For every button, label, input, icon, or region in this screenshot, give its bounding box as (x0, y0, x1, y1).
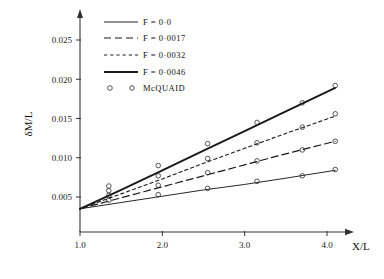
scatter-marker[interactable] (107, 188, 112, 193)
y-tick-label[interactable]: 0.010 (52, 153, 73, 163)
chart-plot-area: 0.0050.0100.0150.0200.0251.02.03.04.0F =… (0, 0, 384, 279)
y-tick-label[interactable]: 0.020 (52, 75, 73, 85)
x-axis-title: X/L (352, 240, 370, 252)
scatter-marker[interactable] (333, 167, 338, 172)
scatter-marker[interactable] (255, 159, 260, 164)
scatter-marker[interactable] (156, 192, 161, 197)
scatter-marker[interactable] (205, 156, 210, 161)
scatter-marker[interactable] (300, 148, 305, 153)
legend-marker-scatter[interactable] (130, 86, 135, 91)
scatter-marker[interactable] (156, 183, 161, 188)
x-tick-label[interactable]: 1.0 (74, 240, 86, 250)
scatter-marker[interactable] (205, 186, 210, 191)
legend-label[interactable]: McQUAID (143, 83, 185, 93)
scatter-marker[interactable] (205, 141, 210, 146)
scatter-marker[interactable] (107, 184, 112, 189)
scatter-marker[interactable] (255, 120, 260, 125)
legend-label[interactable]: F = 0·0017 (143, 33, 186, 43)
data-curve-2[interactable] (80, 116, 335, 209)
y-tick-label[interactable]: 0.015 (52, 114, 73, 124)
x-tick-label[interactable]: 3.0 (239, 240, 251, 250)
chart-figure: 0.0050.0100.0150.0200.0251.02.03.04.0F =… (0, 0, 384, 279)
legend-label[interactable]: F = 0·0046 (143, 67, 186, 77)
scatter-marker[interactable] (156, 174, 161, 179)
x-tick-label[interactable]: 2.0 (157, 240, 169, 250)
y-axis-title-text: δM/L (22, 112, 34, 137)
legend-label[interactable]: F = 0·0032 (143, 50, 186, 60)
legend-label[interactable]: F = 0·0 (143, 17, 172, 27)
y-tick-label[interactable]: 0.025 (52, 35, 73, 45)
scatter-marker[interactable] (333, 111, 338, 116)
y-axis-title: δM/L (22, 104, 34, 144)
y-tick-label[interactable]: 0.005 (52, 192, 73, 202)
legend-marker-scatter[interactable] (108, 86, 113, 91)
y-axis-arrow[interactable] (77, 9, 83, 18)
x-axis-arrow[interactable] (345, 229, 354, 235)
x-tick-label[interactable]: 4.0 (321, 240, 333, 250)
scatter-marker[interactable] (156, 163, 161, 168)
x-axis-title-text: X/L (352, 240, 370, 252)
data-curve-0[interactable] (80, 170, 335, 208)
